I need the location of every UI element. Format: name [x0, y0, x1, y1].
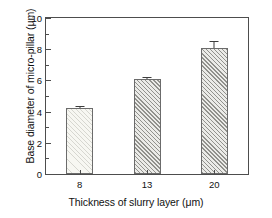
- y-axis-minor-tick: [46, 127, 49, 128]
- x-axis-title: Thickness of slurry layer (μm): [0, 196, 272, 208]
- y-axis-tick: [46, 18, 51, 19]
- x-axis-tick: [147, 170, 148, 174]
- error-bar-cap: [75, 106, 84, 107]
- x-axis-tick: [80, 170, 81, 174]
- error-bar-cap: [210, 41, 219, 42]
- y-axis-tick-label: 4: [37, 106, 42, 117]
- y-axis-tick: [46, 112, 51, 113]
- plot-area: 0246810: [45, 17, 249, 175]
- y-axis-tick-label: 8: [37, 44, 42, 55]
- y-axis-tick-label: 6: [37, 75, 42, 86]
- bar-chart-figure: Base diameter of micro-pillar (μm) 02468…: [0, 0, 272, 218]
- y-axis-minor-tick: [46, 34, 49, 35]
- y-axis-tick-label: 2: [37, 137, 42, 148]
- bar: [66, 108, 93, 174]
- bar: [134, 79, 161, 174]
- plot-inner: 0246810: [46, 18, 248, 174]
- x-axis-tick-label: 13: [142, 179, 153, 190]
- y-axis-tick-label: 0: [37, 169, 42, 180]
- y-axis-tick: [46, 143, 51, 144]
- error-bar-cap: [143, 77, 152, 78]
- x-axis-tick: [214, 170, 215, 174]
- y-axis-minor-tick: [46, 158, 49, 159]
- x-axis-tick-label: 20: [209, 179, 220, 190]
- x-axis-tick-label: 8: [77, 179, 82, 190]
- y-axis-tick-label: 10: [31, 13, 42, 24]
- y-axis-tick: [46, 174, 51, 175]
- y-axis-tick: [46, 49, 51, 50]
- y-axis-title: Base diameter of micro-pillar (μm): [24, 1, 36, 171]
- error-bar: [214, 41, 215, 48]
- y-axis-tick: [46, 80, 51, 81]
- y-axis-minor-tick: [46, 96, 49, 97]
- bar: [201, 48, 228, 174]
- y-axis-minor-tick: [46, 65, 49, 66]
